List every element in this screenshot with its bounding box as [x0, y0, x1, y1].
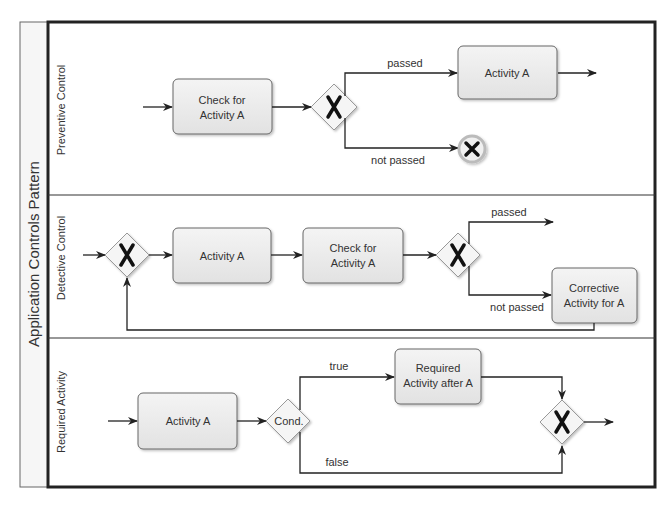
condition-gateway[interactable]: Cond.	[266, 399, 310, 443]
svg-text:Activity A: Activity A	[166, 415, 211, 427]
task-activity-a[interactable]: Activity A	[458, 46, 557, 99]
svg-text:Activity A: Activity A	[200, 250, 245, 262]
task-corrective-activity[interactable]: Corrective Activity for A	[552, 268, 637, 323]
svg-text:Activity after A: Activity after A	[403, 377, 473, 389]
task-check-for-activity-a[interactable]: Check for Activity A	[173, 79, 272, 134]
xor-gateway-split[interactable]	[436, 233, 480, 277]
edge-label-true: true	[330, 360, 349, 372]
xor-gateway-join[interactable]	[540, 400, 584, 444]
edge-label-false: false	[325, 456, 348, 468]
lane-detective: Activity A Check for Activity A passed n…	[83, 206, 637, 330]
svg-text:Activity A: Activity A	[331, 257, 376, 269]
xor-gateway-merge[interactable]	[105, 233, 149, 277]
task-check-for-activity-a[interactable]: Check for Activity A	[303, 228, 403, 283]
svg-text:Required: Required	[416, 362, 461, 374]
end-event-terminate[interactable]	[459, 136, 485, 162]
task-required-activity-after-a[interactable]: Required Activity after A	[395, 349, 481, 404]
lane-required: Activity A Cond. true Required Activity …	[108, 349, 613, 473]
lane-label-preventive: Preventive Control	[55, 65, 67, 156]
task-activity-a[interactable]: Activity A	[138, 393, 237, 449]
svg-text:Corrective: Corrective	[569, 282, 619, 294]
edge-label-not-passed: not passed	[490, 301, 544, 313]
pool-title: Application Controls Pattern	[25, 161, 42, 347]
svg-text:Activity A: Activity A	[200, 109, 245, 121]
lane-label-required: Required Activity	[55, 371, 67, 453]
task-activity-a[interactable]: Activity A	[173, 228, 271, 283]
edge-label-not-passed: not passed	[371, 154, 425, 166]
svg-text:Cond.: Cond.	[274, 415, 303, 427]
xor-gateway[interactable]	[311, 84, 357, 130]
lane-label-detective: Detective Control	[55, 216, 67, 300]
svg-text:Check for: Check for	[198, 94, 245, 106]
svg-text:Check for: Check for	[329, 242, 376, 254]
lane-preventive: Check for Activity A passed Activity A n…	[143, 46, 596, 166]
edge-label-passed: passed	[491, 206, 526, 218]
svg-text:Activity A: Activity A	[485, 67, 530, 79]
svg-text:Activity for A: Activity for A	[564, 297, 625, 309]
edge-label-passed: passed	[387, 57, 422, 69]
bpmn-diagram: Application Controls Pattern Preventive …	[0, 0, 671, 506]
